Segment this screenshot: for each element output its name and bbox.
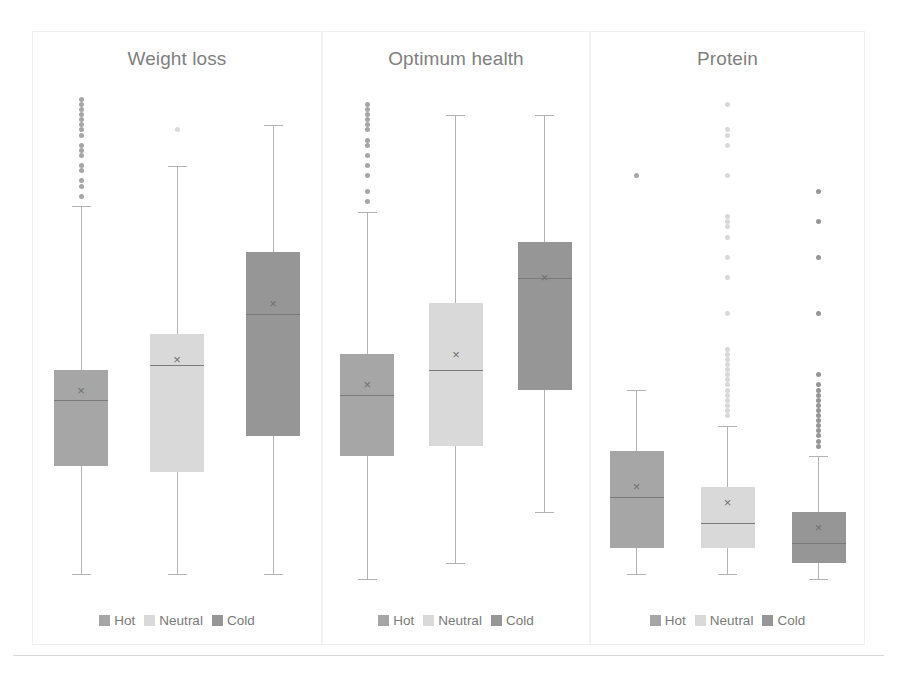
boxplot-series-cold[interactable] (500, 84, 589, 594)
outlier-point (725, 377, 730, 382)
boxplot-series-cold[interactable] (225, 84, 321, 594)
boxplot-series-cold[interactable] (773, 84, 864, 594)
footer-divider (13, 655, 884, 656)
mean-marker-x-icon (171, 353, 184, 366)
whisker-cap-lower (72, 574, 91, 575)
outlier-point (816, 403, 821, 408)
outlier-point (79, 143, 84, 148)
boxplot-series-hot[interactable] (323, 84, 412, 594)
outlier-point (725, 362, 730, 367)
outlier-point (725, 214, 730, 219)
panel-protein: Protein HotNeutralCold (590, 31, 865, 645)
whisker-cap-lower (535, 512, 554, 513)
boxplot-series-hot[interactable] (33, 84, 129, 594)
legend-label: Cold (227, 613, 255, 628)
outlier-point (725, 413, 730, 418)
legend-weight-loss: HotNeutralCold (33, 613, 321, 628)
outlier-point (816, 219, 821, 224)
whisker-cap-upper (627, 390, 646, 391)
outlier-point (725, 382, 730, 387)
boxplot-series-neutral[interactable] (682, 84, 773, 594)
outlier-point (79, 194, 84, 199)
outlier-point (175, 127, 180, 132)
panel-optimum-health: Optimum health HotNeutralCold (322, 31, 590, 645)
outlier-point (365, 107, 370, 112)
outlier-point (816, 428, 821, 433)
outlier-point (79, 107, 84, 112)
outlier-point (725, 133, 730, 138)
median-line (701, 523, 755, 524)
legend-swatch-cold-icon (762, 615, 773, 626)
outlier-point (79, 112, 84, 117)
whisker-cap-lower (627, 574, 646, 575)
outlier-point (725, 403, 730, 408)
outlier-point (79, 168, 84, 173)
mean-marker-x-icon (361, 378, 374, 391)
box-iqr[interactable] (518, 242, 572, 390)
outlier-point (725, 398, 730, 403)
mean-marker-x-icon (449, 348, 462, 361)
box-iqr[interactable] (246, 252, 300, 436)
outlier-point (725, 275, 730, 280)
outlier-point (816, 423, 821, 428)
legend-label: Cold (506, 613, 534, 628)
box-iqr[interactable] (610, 451, 664, 548)
outlier-point (725, 255, 730, 260)
legend-entry-cold[interactable]: Cold (762, 613, 805, 628)
plot-area-weight-loss (33, 84, 321, 594)
whisker-cap-lower (264, 574, 283, 575)
legend-entry-neutral[interactable]: Neutral (695, 613, 754, 628)
outlier-point (725, 311, 730, 316)
legend-entry-hot[interactable]: Hot (378, 613, 414, 628)
outlier-point (365, 117, 370, 122)
plot-area-optimum-health (323, 84, 589, 594)
outlier-point (79, 148, 84, 153)
box-iqr[interactable] (340, 354, 394, 456)
outlier-point (725, 357, 730, 362)
boxplot-series-neutral[interactable] (412, 84, 501, 594)
outlier-point (79, 117, 84, 122)
whisker-cap-upper (72, 206, 91, 207)
median-line (340, 395, 394, 396)
legend-swatch-hot-icon (650, 615, 661, 626)
outlier-point (725, 224, 730, 229)
outlier-point (79, 184, 84, 189)
outlier-point (725, 388, 730, 393)
outlier-point (365, 138, 370, 143)
box-iqr[interactable] (429, 303, 483, 446)
panel-title-optimum-health: Optimum health (323, 48, 589, 70)
outlier-point (365, 189, 370, 194)
legend-entry-neutral[interactable]: Neutral (423, 613, 482, 628)
legend-entry-neutral[interactable]: Neutral (144, 613, 203, 628)
outlier-point (816, 418, 821, 423)
median-line (429, 370, 483, 371)
legend-entry-hot[interactable]: Hot (99, 613, 135, 628)
outlier-point (725, 352, 730, 357)
legend-label: Neutral (438, 613, 482, 628)
mean-marker-x-icon (267, 297, 280, 310)
outlier-point (79, 122, 84, 127)
whisker-cap-upper (358, 212, 377, 213)
whisker-cap-upper (264, 125, 283, 126)
legend-entry-hot[interactable]: Hot (650, 613, 686, 628)
outlier-point (79, 97, 84, 102)
outlier-point (79, 153, 84, 158)
outlier-point (816, 398, 821, 403)
legend-entry-cold[interactable]: Cold (212, 613, 255, 628)
whisker-cap-upper (168, 166, 187, 167)
whisker-cap-lower (358, 579, 377, 580)
whisker-cap-lower (809, 579, 828, 580)
boxplot-series-neutral[interactable] (129, 84, 225, 594)
legend-entry-cold[interactable]: Cold (491, 613, 534, 628)
boxplot-series-hot[interactable] (591, 84, 682, 594)
plot-area-protein (591, 84, 864, 594)
outlier-point (725, 173, 730, 178)
outlier-point (79, 102, 84, 107)
legend-swatch-cold-icon (212, 615, 223, 626)
outlier-point (365, 102, 370, 107)
legend-label: Neutral (710, 613, 754, 628)
outlier-point (725, 408, 730, 413)
mean-marker-x-icon (75, 384, 88, 397)
outlier-point (365, 173, 370, 178)
legend-swatch-hot-icon (378, 615, 389, 626)
